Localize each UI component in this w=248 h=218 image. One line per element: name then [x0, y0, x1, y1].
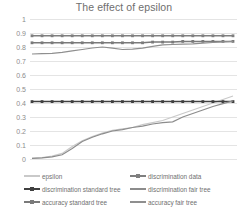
- series-marker: [81, 41, 84, 44]
- y-axis-tick-label: 0.4: [0, 100, 26, 107]
- legend-item[interactable]: accuracy standard tree: [24, 196, 134, 208]
- legend-label: discrimination standard tree: [42, 186, 121, 193]
- series-marker: [161, 41, 164, 44]
- series-marker: [51, 100, 54, 103]
- series-marker: [212, 100, 215, 103]
- series-marker: [101, 100, 104, 103]
- series-marker: [232, 34, 235, 37]
- series-marker: [161, 34, 164, 37]
- series-marker: [121, 100, 124, 103]
- legend-label: accuracy standard tree: [42, 199, 107, 206]
- series-marker: [171, 41, 174, 44]
- series-marker: [151, 41, 154, 44]
- series-marker: [41, 100, 44, 103]
- series-marker: [91, 100, 94, 103]
- series-marker: [171, 100, 174, 103]
- series-marker: [131, 34, 134, 37]
- series-marker: [101, 41, 104, 44]
- series-marker: [91, 41, 94, 44]
- series-marker: [181, 100, 184, 103]
- legend-column-right: discrimination datadiscrimination fair t…: [130, 170, 240, 209]
- y-axis-tick-label: 0.5: [0, 86, 26, 93]
- gridline: [30, 159, 237, 160]
- y-axis-tick-label: 0.8: [0, 44, 26, 51]
- series-marker: [201, 34, 204, 37]
- legend-item[interactable]: discrimination fair tree: [130, 183, 240, 195]
- legend-column-left: epsilondiscrimination standard treeaccur…: [24, 170, 134, 209]
- legend-swatch-icon: [130, 171, 146, 181]
- y-axis-tick-label: 0.6: [0, 72, 26, 79]
- series-marker: [61, 34, 64, 37]
- series-marker: [31, 41, 34, 44]
- legend-item[interactable]: accuracy fair tree: [130, 196, 240, 208]
- series-marker: [111, 100, 114, 103]
- series-marker: [151, 34, 154, 37]
- legend-swatch-icon: [24, 171, 40, 181]
- y-axis-tick-label: 0.9: [0, 30, 26, 37]
- series-marker: [191, 40, 194, 43]
- series-marker: [71, 34, 74, 37]
- series-marker: [181, 34, 184, 37]
- chart-legend: epsilondiscrimination standard treeaccur…: [18, 170, 240, 214]
- legend-swatch-icon: [130, 197, 146, 207]
- legend-label: discrimination fair tree: [148, 186, 211, 193]
- series-marker: [41, 41, 44, 44]
- legend-swatch-icon: [24, 197, 40, 207]
- series-marker: [51, 34, 54, 37]
- series-marker: [201, 40, 204, 43]
- y-axis-tick-labels: 00.10.20.30.40.50.60.70.80.91: [0, 19, 26, 159]
- series-discrimination-fair-tree: [32, 101, 233, 158]
- series-marker: [201, 100, 204, 103]
- series-marker: [41, 34, 44, 37]
- legend-item[interactable]: epsilon: [24, 170, 134, 182]
- series-marker: [51, 41, 54, 44]
- legend-label: epsilon: [42, 173, 62, 180]
- series-marker: [81, 100, 84, 103]
- y-axis-tick-label: 0.3: [0, 114, 26, 121]
- legend-swatch-icon: [130, 184, 146, 194]
- series-marker: [222, 34, 225, 37]
- series-marker: [121, 34, 124, 37]
- series-marker: [91, 34, 94, 37]
- series-marker: [161, 100, 164, 103]
- plot-area: [30, 19, 237, 159]
- series-discrimination-standard-tree: [31, 100, 235, 103]
- series-marker: [151, 100, 154, 103]
- series-marker: [111, 41, 114, 44]
- series-marker: [121, 41, 124, 44]
- chart-container: The effect of epsilon 00.10.20.30.40.50.…: [0, 0, 248, 218]
- series-marker: [31, 34, 34, 37]
- legend-swatch-icon: [24, 184, 40, 194]
- series-marker: [81, 34, 84, 37]
- series-marker: [222, 100, 225, 103]
- legend-item[interactable]: discrimination data: [130, 170, 240, 182]
- series-marker: [131, 100, 134, 103]
- series-marker: [71, 100, 74, 103]
- legend-label: discrimination data: [148, 173, 201, 180]
- y-axis-tick-label: 0.2: [0, 128, 26, 135]
- y-axis-tick-label: 0.1: [0, 142, 26, 149]
- legend-item[interactable]: discrimination standard tree: [24, 183, 134, 195]
- series-marker: [61, 41, 64, 44]
- series-marker: [31, 100, 34, 103]
- series-line: [32, 101, 233, 158]
- series-marker: [131, 41, 134, 44]
- series-marker: [141, 41, 144, 44]
- series-marker: [111, 34, 114, 37]
- y-axis-tick-label: 0: [0, 156, 26, 163]
- series-marker: [101, 34, 104, 37]
- series-marker: [141, 100, 144, 103]
- series-marker: [61, 100, 64, 103]
- series-marker: [141, 34, 144, 37]
- series-discrimination-data: [31, 34, 235, 37]
- y-axis-tick-label: 0.7: [0, 58, 26, 65]
- legend-label: accuracy fair tree: [148, 199, 197, 206]
- series-marker: [191, 100, 194, 103]
- series-marker: [171, 34, 174, 37]
- series-marker: [181, 40, 184, 43]
- y-axis-tick-label: 1: [0, 16, 26, 23]
- chart-title: The effect of epsilon: [0, 1, 248, 13]
- series-marker: [71, 41, 74, 44]
- series-layer: [30, 19, 237, 159]
- series-marker: [212, 34, 215, 37]
